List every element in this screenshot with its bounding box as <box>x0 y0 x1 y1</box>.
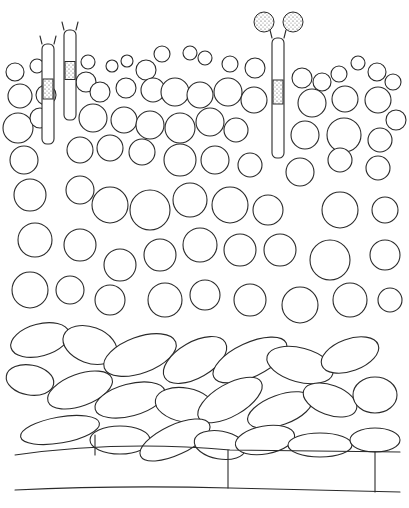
globose-cell <box>328 148 352 172</box>
globose-cell <box>92 187 128 223</box>
globose-cell <box>201 146 229 174</box>
globose-cell <box>365 87 391 113</box>
basal-hypha-outline <box>15 487 400 492</box>
globose-cell <box>187 82 213 108</box>
globose-cell <box>212 187 248 223</box>
tissue-illustration <box>0 0 409 508</box>
globose-cell <box>292 68 312 88</box>
globose-cell <box>332 86 358 112</box>
globose-cell <box>81 55 95 69</box>
spore <box>283 12 303 32</box>
globose-cell <box>331 66 347 82</box>
globose-cell <box>6 63 24 81</box>
globose-cell <box>291 121 319 149</box>
hyphal-layer <box>4 317 400 470</box>
globose-cell <box>298 89 326 117</box>
globose-cell <box>224 234 256 266</box>
globose-cell <box>111 107 137 133</box>
globose-cell <box>241 87 267 113</box>
hyphal-cell <box>288 433 352 457</box>
globose-cell <box>173 183 207 217</box>
globose-cell <box>313 73 331 91</box>
globose-cell <box>264 234 296 266</box>
globose-cell <box>104 249 136 281</box>
globose-cell <box>79 104 107 132</box>
globose-cell <box>327 118 361 152</box>
sterigma <box>270 30 286 38</box>
globose-cell <box>67 137 93 163</box>
globose-cell <box>368 63 386 81</box>
globose-cell <box>282 287 318 323</box>
globose-cell <box>144 239 176 271</box>
globose-cell <box>18 223 52 257</box>
globose-cell <box>129 139 155 165</box>
hyphal-cell <box>4 361 56 399</box>
globose-cell <box>322 192 358 228</box>
globose-cell <box>161 78 189 106</box>
globose-cell <box>136 60 156 80</box>
globose-cell <box>8 84 32 108</box>
basidium-stipple <box>65 62 75 80</box>
globose-cell <box>130 190 170 230</box>
globose-cell <box>310 240 350 280</box>
globose-cell <box>14 179 46 211</box>
hyphal-cell <box>18 410 101 449</box>
globose-cell <box>183 228 217 262</box>
globose-cell <box>385 74 401 90</box>
globose-cell <box>222 56 238 72</box>
globose-cell <box>164 144 196 176</box>
illustration-svg <box>0 0 409 508</box>
globose-cell <box>116 78 136 98</box>
globose-cell <box>368 128 392 152</box>
globose-cell <box>190 280 220 310</box>
globose-cell <box>154 46 170 62</box>
globose-cell <box>351 56 365 70</box>
globose-cell <box>238 153 262 177</box>
globose-cell <box>66 176 94 204</box>
hyphal-cell <box>353 377 397 413</box>
spores <box>254 12 303 32</box>
hyphal-cell <box>350 428 400 452</box>
globose-cell <box>370 240 400 270</box>
globose-cell <box>372 197 398 223</box>
globose-cell <box>3 113 33 143</box>
globose-cell <box>148 283 182 317</box>
globose-cell <box>286 158 314 186</box>
globose-cell <box>234 284 266 316</box>
sterigma <box>40 36 56 44</box>
globose-cell <box>136 111 164 139</box>
globose-cell <box>245 58 265 78</box>
globose-cell <box>253 195 283 225</box>
globose-cell <box>196 108 224 136</box>
globose-cell <box>56 276 84 304</box>
globose-cell <box>198 51 212 65</box>
globose-cell <box>95 285 125 315</box>
globose-cell <box>10 146 38 174</box>
globose-cell <box>224 118 248 142</box>
spore <box>254 12 274 32</box>
globose-cell <box>97 135 123 161</box>
globose-cell <box>333 283 367 317</box>
globose-cell <box>12 272 48 308</box>
globose-cell <box>165 113 195 143</box>
globose-cell <box>106 60 118 72</box>
basidium-stipple <box>43 79 53 99</box>
sterigma <box>62 22 78 30</box>
globose-cell <box>121 55 133 67</box>
basidium-stipple <box>273 80 283 104</box>
globose-cell <box>90 82 110 102</box>
globose-cell <box>366 156 390 180</box>
globose-cell <box>183 46 197 60</box>
globose-cell <box>378 288 402 312</box>
globose-cell <box>64 229 96 261</box>
globose-cell <box>386 110 406 130</box>
globose-cell <box>214 78 242 106</box>
